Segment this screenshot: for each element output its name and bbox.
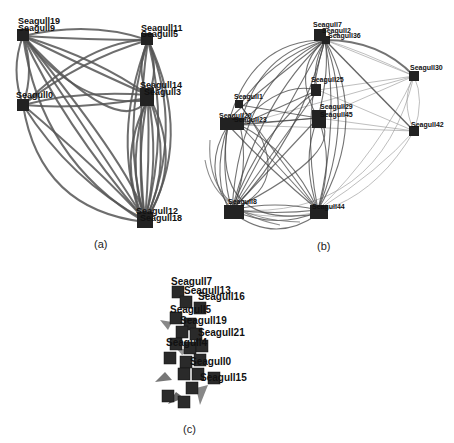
network-graph-a: Seagull19 Seagull9 Seagull11 Seagull5 Se… (0, 0, 227, 245)
node-label: Seagull5 (141, 29, 178, 39)
edges-a (17, 29, 171, 222)
node-label: Seagull42 (411, 121, 444, 129)
node-label: Seagull36 (328, 32, 361, 40)
caption-a: (a) (94, 238, 107, 250)
node-label: Seagull29 (320, 103, 353, 111)
node-label: Seagull30 (410, 64, 443, 72)
node-label: Seagull1 (234, 93, 263, 101)
network-graph-b: Seagull7 Seagull2 Seagull36 Seagull30 Se… (200, 0, 454, 245)
node-label: Seagull8 (228, 198, 257, 206)
node-label: Seagull0 (190, 356, 232, 367)
node-label: Seagull19 (180, 315, 227, 326)
node-label: Seagull25 (311, 76, 344, 84)
node-label: Seagull44 (312, 203, 345, 211)
caption-c: (c) (183, 423, 196, 435)
caption-b: (b) (317, 240, 330, 252)
node-label: Seagull0 (16, 90, 53, 100)
node-label: Seagull3 (144, 87, 181, 97)
node-label: Seagull16 (198, 291, 245, 302)
node-label: Seagull4 (166, 337, 208, 348)
node-label: Seagull45 (320, 111, 353, 119)
node-label: Seagull23 (234, 116, 267, 124)
node-label: Seagull18 (140, 213, 182, 223)
node-label: Seagull5 (170, 304, 212, 315)
node-label: Seagull15 (200, 372, 247, 383)
network-graph-c: Seagull7 Seagull13 Seagull16 Seagull5 Se… (140, 270, 290, 410)
node-label: Seagull9 (18, 23, 55, 33)
